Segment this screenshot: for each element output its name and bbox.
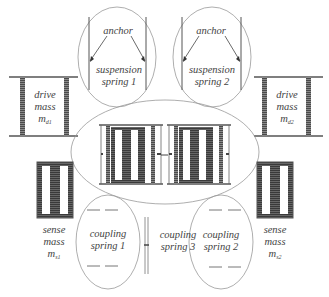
sense-mass-1-label: sense mass ms1 bbox=[36, 224, 72, 263]
drive-mass-2-label: drive mass md2 bbox=[270, 89, 304, 128]
anchor-label-2: anchor bbox=[191, 25, 231, 37]
label-line-1: coupling bbox=[193, 229, 249, 241]
sense-mass-2-label: sense mass ms2 bbox=[257, 224, 293, 263]
label-line-2: spring 2 bbox=[185, 76, 239, 88]
central-structure bbox=[71, 100, 259, 204]
symbol: m bbox=[38, 113, 46, 124]
sense-mass-1 bbox=[37, 162, 73, 218]
subscript: s2 bbox=[276, 254, 281, 260]
label-line-2: mass bbox=[270, 101, 304, 113]
label-line-2: spring 1 bbox=[80, 240, 136, 252]
label-line-2: spring 1 bbox=[92, 76, 146, 88]
label-line-1: drive bbox=[270, 89, 304, 101]
mass-symbol: md2 bbox=[270, 113, 304, 128]
symbol: m bbox=[48, 248, 56, 259]
sense-mass-2 bbox=[257, 162, 293, 218]
label-line-1: sense bbox=[36, 224, 72, 236]
label-line-2: mass bbox=[36, 236, 72, 248]
label-line-1: suspension bbox=[185, 64, 239, 76]
symbol: m bbox=[280, 113, 288, 124]
coupling-spring-1-label: coupling spring 1 bbox=[80, 228, 136, 252]
label-line-2: mass bbox=[257, 236, 293, 248]
suspension-spring-1-detail bbox=[78, 7, 156, 107]
coupling-spring-3-detail bbox=[144, 217, 149, 274]
anchor-text: anchor bbox=[103, 25, 133, 36]
label-line-2: mass bbox=[28, 101, 62, 113]
mass-symbol: ms2 bbox=[257, 248, 293, 263]
subscript: d2 bbox=[288, 119, 294, 125]
subscript: d1 bbox=[46, 119, 52, 125]
drive-mass-1-label: drive mass md1 bbox=[28, 89, 62, 128]
suspension-spring-1-label: suspension spring 1 bbox=[92, 64, 146, 88]
coupling-spring-2-label: coupling spring 2 bbox=[193, 229, 249, 253]
label-line-1: suspension bbox=[92, 64, 146, 76]
suspension-spring-2-detail bbox=[173, 7, 251, 107]
label-line-2: spring 2 bbox=[193, 241, 249, 253]
label-line-1: drive bbox=[28, 89, 62, 101]
subscript: s1 bbox=[55, 254, 60, 260]
mass-symbol: ms1 bbox=[36, 248, 72, 263]
symbol: m bbox=[269, 248, 277, 259]
anchor-label-1: anchor bbox=[98, 25, 138, 37]
label-line-1: sense bbox=[257, 224, 293, 236]
label-line-1: coupling bbox=[80, 228, 136, 240]
suspension-spring-2-label: suspension spring 2 bbox=[185, 64, 239, 88]
mass-symbol: md1 bbox=[28, 113, 62, 128]
anchor-text: anchor bbox=[196, 25, 226, 36]
